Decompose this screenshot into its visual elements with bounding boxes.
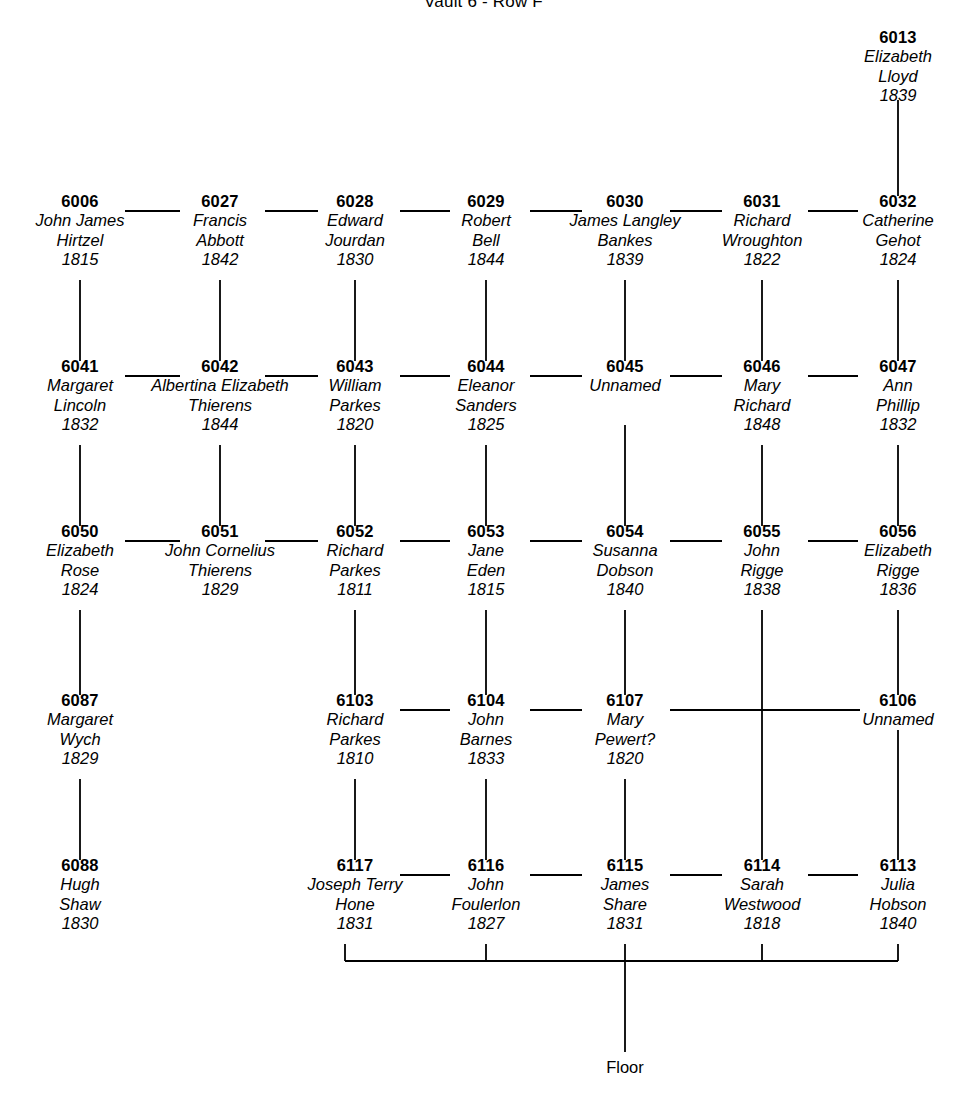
node-year: 1831 xyxy=(308,914,403,933)
vault-node-6051[interactable]: 6051John CorneliusThierens1829 xyxy=(165,522,275,599)
vault-node-6050[interactable]: 6050ElizabethRose1824 xyxy=(46,522,114,599)
vault-node-6115[interactable]: 6115JamesShare1831 xyxy=(601,856,650,933)
node-name: Wroughton xyxy=(722,231,803,250)
node-id: 6013 xyxy=(864,28,932,47)
vault-node-6044[interactable]: 6044EleanorSanders1825 xyxy=(455,357,516,434)
vault-node-6103[interactable]: 6103RichardParkes1810 xyxy=(327,691,384,768)
node-year: 1820 xyxy=(328,415,381,434)
node-year: 1836 xyxy=(864,580,932,599)
node-name: Parkes xyxy=(328,396,381,415)
vault-node-6045[interactable]: 6045Unnamed xyxy=(589,357,661,396)
vault-node-6028[interactable]: 6028EdwardJourdan1830 xyxy=(325,192,385,269)
node-id: 6044 xyxy=(455,357,516,376)
node-name: Pewert? xyxy=(595,730,656,749)
node-name: Sanders xyxy=(455,396,516,415)
node-name: John xyxy=(740,541,783,560)
node-name: Share xyxy=(601,895,650,914)
node-id: 6055 xyxy=(740,522,783,541)
vault-node-6055[interactable]: 6055JohnRigge1838 xyxy=(740,522,783,599)
vault-node-6117[interactable]: 6117Joseph TerryHone1831 xyxy=(308,856,403,933)
node-id: 6107 xyxy=(595,691,656,710)
node-id: 6045 xyxy=(589,357,661,376)
vault-node-6032[interactable]: 6032CatherineGehot1824 xyxy=(862,192,934,269)
node-name: Westwood xyxy=(724,895,801,914)
node-name: Foulerlon xyxy=(452,895,521,914)
node-name: Shaw xyxy=(59,895,100,914)
node-name: Abbott xyxy=(193,231,247,250)
node-name: Margaret xyxy=(47,710,113,729)
vault-node-6114[interactable]: 6114SarahWestwood1818 xyxy=(724,856,801,933)
node-name: Edward xyxy=(325,211,385,230)
floor-label: Floor xyxy=(606,1058,644,1077)
vault-node-6054[interactable]: 6054SusannaDobson1840 xyxy=(592,522,657,599)
node-id: 6106 xyxy=(862,691,934,710)
node-year: 1829 xyxy=(165,580,275,599)
node-name: Dobson xyxy=(592,561,657,580)
node-year: 1838 xyxy=(740,580,783,599)
node-name: Bankes xyxy=(570,231,681,250)
node-name: Francis xyxy=(193,211,247,230)
node-name: Lloyd xyxy=(864,67,932,86)
node-id: 6113 xyxy=(870,856,927,875)
node-name: Lincoln xyxy=(47,396,113,415)
node-id: 6027 xyxy=(193,192,247,211)
node-id: 6054 xyxy=(592,522,657,541)
node-name: Thierens xyxy=(165,561,275,580)
node-year: 1839 xyxy=(570,250,681,269)
vault-node-6031[interactable]: 6031RichardWroughton1822 xyxy=(722,192,803,269)
vault-node-6113[interactable]: 6113JuliaHobson1840 xyxy=(870,856,927,933)
vault-node-6088[interactable]: 6088HughShaw1830 xyxy=(59,856,100,933)
node-name: Eden xyxy=(467,561,506,580)
node-name: John xyxy=(452,875,521,894)
node-id: 6042 xyxy=(151,357,289,376)
node-name: John xyxy=(460,710,512,729)
node-name: Elizabeth xyxy=(46,541,114,560)
node-id: 6032 xyxy=(862,192,934,211)
vault-node-6030[interactable]: 6030James LangleyBankes1839 xyxy=(570,192,681,269)
node-id: 6116 xyxy=(452,856,521,875)
node-name: Hone xyxy=(308,895,403,914)
vault-node-6106[interactable]: 6106Unnamed xyxy=(862,691,934,730)
vault-node-6046[interactable]: 6046MaryRichard1848 xyxy=(734,357,791,434)
node-name: Rose xyxy=(46,561,114,580)
node-name: Barnes xyxy=(460,730,512,749)
vault-node-6116[interactable]: 6116JohnFoulerlon1827 xyxy=(452,856,521,933)
vault-node-6052[interactable]: 6052RichardParkes1811 xyxy=(327,522,384,599)
node-name: Jane xyxy=(467,541,506,560)
node-id: 6028 xyxy=(325,192,385,211)
node-name: Susanna xyxy=(592,541,657,560)
node-name: Hobson xyxy=(870,895,927,914)
node-id: 6052 xyxy=(327,522,384,541)
vault-node-6053[interactable]: 6053JaneEden1815 xyxy=(467,522,506,599)
vault-node-6029[interactable]: 6029RobertBell1844 xyxy=(461,192,511,269)
vault-node-6006[interactable]: 6006John JamesHirtzel1815 xyxy=(36,192,125,269)
node-name: Mary xyxy=(595,710,656,729)
node-id: 6087 xyxy=(47,691,113,710)
node-year: 1815 xyxy=(36,250,125,269)
vault-node-6104[interactable]: 6104JohnBarnes1833 xyxy=(460,691,512,768)
node-year: 1830 xyxy=(59,914,100,933)
node-id: 6117 xyxy=(308,856,403,875)
node-id: 6088 xyxy=(59,856,100,875)
node-id: 6006 xyxy=(36,192,125,211)
node-year: 1848 xyxy=(734,415,791,434)
node-name: Sarah xyxy=(724,875,801,894)
vault-node-6087[interactable]: 6087MargaretWych1829 xyxy=(47,691,113,768)
vault-node-6041[interactable]: 6041MargaretLincoln1832 xyxy=(47,357,113,434)
node-year: 1844 xyxy=(151,415,289,434)
vault-node-6042[interactable]: 6042Albertina ElizabethThierens1844 xyxy=(151,357,289,434)
node-year: 1827 xyxy=(452,914,521,933)
node-name: James Langley xyxy=(570,211,681,230)
node-year: 1824 xyxy=(46,580,114,599)
node-name: Richard xyxy=(327,541,384,560)
vault-node-6056[interactable]: 6056ElizabethRigge1836 xyxy=(864,522,932,599)
vault-node-6027[interactable]: 6027FrancisAbbott1842 xyxy=(193,192,247,269)
vault-node-6107[interactable]: 6107MaryPewert?1820 xyxy=(595,691,656,768)
node-name: Hirtzel xyxy=(36,231,125,250)
node-name: Rigge xyxy=(864,561,932,580)
node-id: 6115 xyxy=(601,856,650,875)
node-name: Wych xyxy=(47,730,113,749)
vault-node-6043[interactable]: 6043WilliamParkes1820 xyxy=(328,357,381,434)
vault-node-6047[interactable]: 6047AnnPhillip1832 xyxy=(876,357,920,434)
vault-node-6013[interactable]: 6013ElizabethLloyd1839 xyxy=(864,28,932,105)
